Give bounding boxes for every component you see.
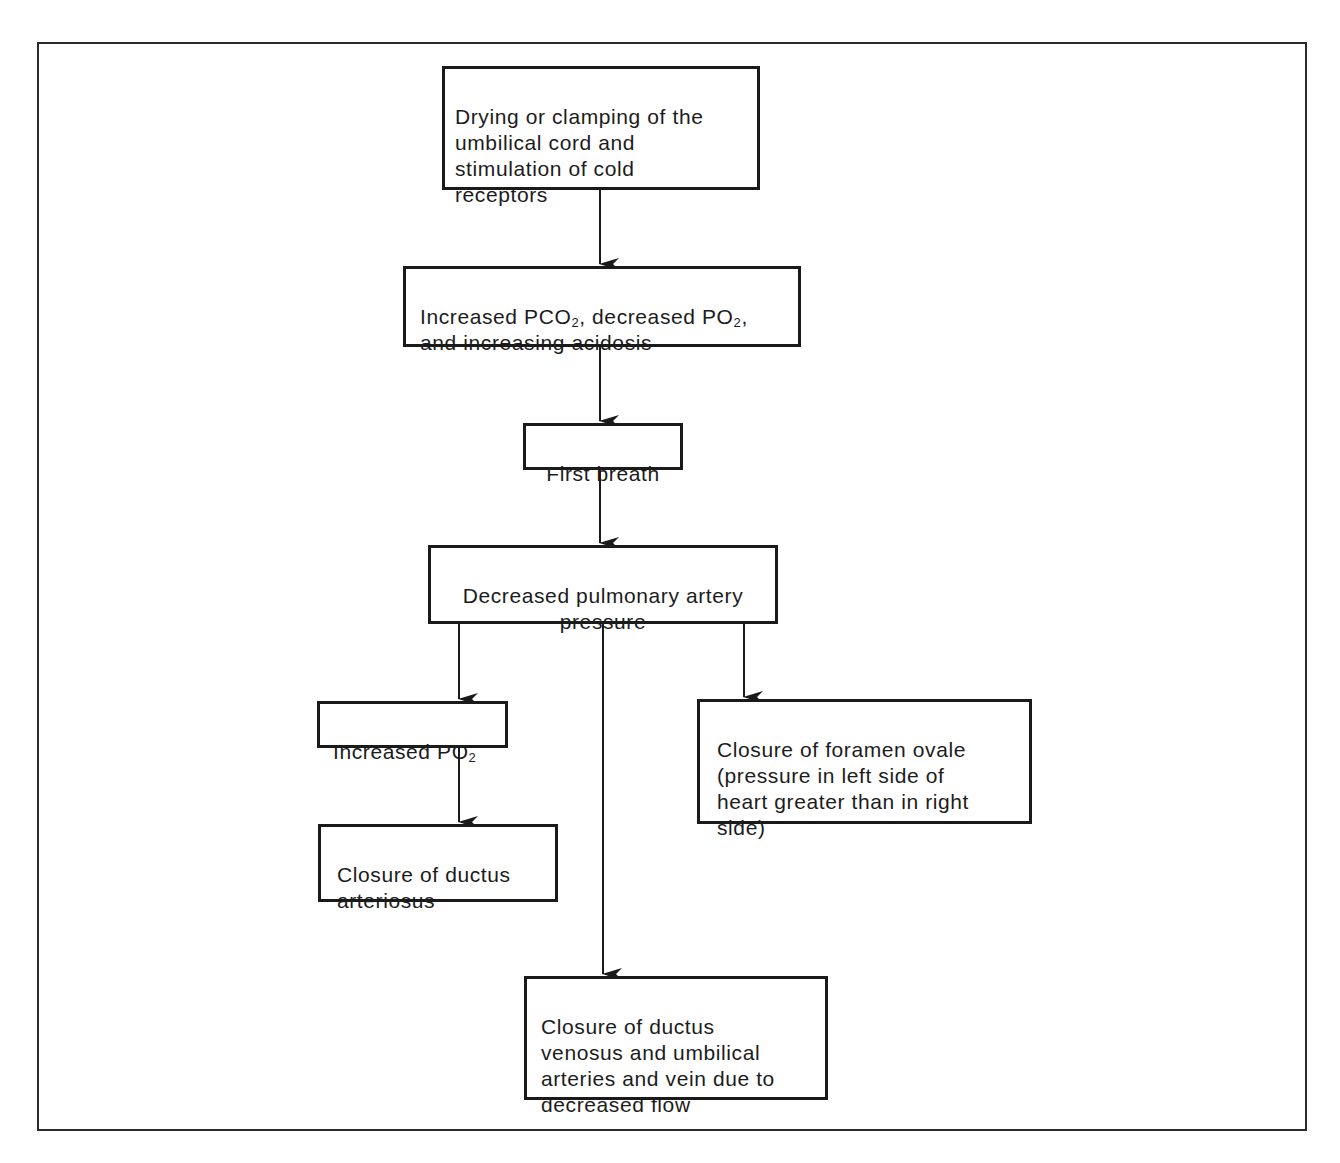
node-closure-ductus-venosus: Closure of ductus venosus and umbilical … bbox=[524, 976, 828, 1100]
node-increased-pco2-text-b: , decreased PO bbox=[579, 305, 733, 328]
node-increased-pco2: Increased PCO2, decreased PO2, and incre… bbox=[403, 266, 801, 347]
node-decreased-pulmonary-pressure: Decreased pulmonary artery pressure bbox=[428, 545, 778, 624]
node-increased-po2: Increased PO2 bbox=[317, 701, 508, 748]
node-closure-foramen-ovale: Closure of foramen ovale (pressure in le… bbox=[697, 699, 1032, 824]
node-first-breath: First breath bbox=[523, 423, 683, 470]
node-closure-ductus-arteriosus: Closure of ductus arteriosus bbox=[318, 824, 558, 902]
node-first-breath-text: First breath bbox=[546, 462, 659, 485]
node-closure-foramen-ovale-text: Closure of foramen ovale (pressure in le… bbox=[717, 738, 969, 839]
node-cord-clamping: Drying or clamping of the umbilical cord… bbox=[442, 66, 760, 190]
subscript-2: 2 bbox=[469, 750, 477, 765]
node-increased-po2-text: Increased PO bbox=[333, 740, 469, 763]
node-increased-pco2-text-a: Increased PCO bbox=[420, 305, 571, 328]
